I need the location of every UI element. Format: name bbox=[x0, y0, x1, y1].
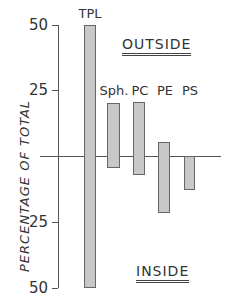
tick-label-top-25: 25 bbox=[8, 81, 48, 99]
tick-label-bottom-50: 50 bbox=[8, 279, 48, 297]
tick-bottom-50 bbox=[52, 288, 58, 289]
tick-bottom-25 bbox=[52, 222, 58, 223]
bar-sph bbox=[107, 103, 120, 168]
tick-top-25 bbox=[52, 90, 58, 91]
tick-label-top-50: 50 bbox=[8, 16, 48, 34]
category-label-ps: PS bbox=[178, 83, 202, 98]
bar-ps bbox=[184, 156, 195, 190]
category-label-pe: PE bbox=[153, 83, 177, 98]
bar-pc bbox=[133, 102, 145, 175]
bar-pe bbox=[158, 142, 170, 213]
category-label-sph: Sph. bbox=[98, 83, 130, 98]
category-label-pc: PC bbox=[128, 83, 152, 98]
y-axis-label: PERCENTAGE OF TOTAL bbox=[17, 100, 32, 272]
bar-tpl bbox=[84, 25, 96, 288]
tick-top-50 bbox=[52, 25, 58, 26]
region-label-outside: OUTSIDE bbox=[122, 36, 191, 56]
tick-label-bottom-25: 25 bbox=[8, 213, 48, 231]
category-label-tpl: TPL bbox=[75, 6, 105, 21]
region-label-inside: INSIDE bbox=[136, 263, 189, 283]
